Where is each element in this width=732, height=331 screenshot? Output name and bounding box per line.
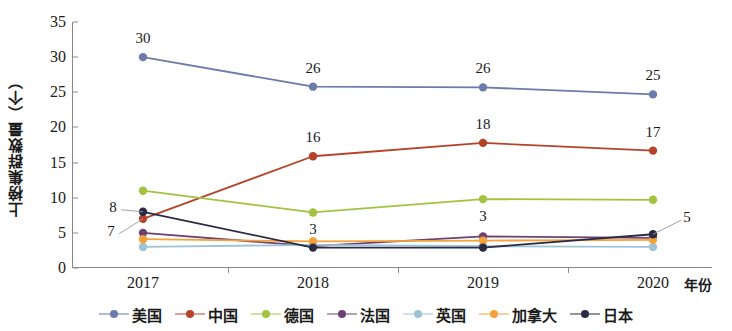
x-axis-tick-label: 2020	[637, 274, 669, 292]
data-point-中国	[309, 152, 317, 160]
data-point-美国	[139, 53, 147, 61]
y-axis-tick-mark	[73, 92, 78, 93]
legend-dot-icon	[414, 310, 422, 318]
y-axis-tick-mark	[73, 232, 78, 233]
data-label: 5	[683, 210, 691, 225]
data-label: 8	[109, 200, 117, 215]
legend-label: 德国	[284, 304, 314, 325]
y-axis-tick-mark	[73, 127, 78, 128]
legend-item-德国[interactable]: 德国	[251, 304, 314, 325]
legend-marker-icon	[570, 308, 600, 320]
data-point-日本	[309, 243, 317, 251]
series-line-中国	[143, 143, 653, 219]
legend-label: 法国	[360, 304, 390, 325]
x-axis-tick-mark	[398, 267, 399, 273]
series-line-美国	[143, 57, 653, 94]
y-axis-tick-mark	[73, 268, 78, 269]
data-point-美国	[649, 90, 657, 98]
legend-item-中国[interactable]: 中国	[175, 304, 238, 325]
plot-area: 0510152025303520172018201920203026262516…	[72, 22, 712, 268]
legend-marker-icon	[479, 308, 509, 320]
data-label: 17	[646, 125, 661, 140]
legend-label: 加拿大	[512, 304, 557, 325]
legend-marker-icon	[327, 308, 357, 320]
legend-marker-icon	[403, 308, 433, 320]
x-axis-title: 年份	[684, 274, 712, 294]
x-axis-tick-label: 2017	[127, 274, 159, 292]
legend-label: 美国	[132, 304, 162, 325]
legend-dot-icon	[110, 310, 118, 318]
data-label: 30	[136, 31, 151, 46]
y-axis-tick-label: 30	[50, 48, 73, 66]
data-label: 18	[476, 117, 491, 132]
data-point-中国	[649, 146, 657, 154]
y-axis-tick-mark	[73, 22, 78, 23]
legend-item-英国[interactable]: 英国	[403, 304, 466, 325]
legend-item-美国[interactable]: 美国	[99, 304, 162, 325]
y-axis-title: 上榜集群数量（个）	[2, 22, 30, 268]
legend-dot-icon	[338, 310, 346, 318]
data-label: 7	[107, 224, 115, 239]
data-label: 25	[646, 68, 661, 83]
legend-item-加拿大[interactable]: 加拿大	[479, 304, 557, 325]
data-point-德国	[309, 208, 317, 216]
data-label: 26	[306, 61, 321, 76]
x-axis-tick-mark	[568, 267, 569, 273]
y-axis-tick-mark	[73, 162, 78, 163]
series-line-德国	[143, 191, 653, 213]
legend-item-日本[interactable]: 日本	[570, 304, 633, 325]
data-point-日本	[479, 243, 487, 251]
plot-svg	[73, 22, 713, 268]
data-point-中国	[479, 139, 487, 147]
x-axis-tick-mark	[228, 267, 229, 273]
line-chart-figure: 上榜集群数量（个） 051015202530352017201820192020…	[0, 0, 732, 331]
data-label: 16	[306, 130, 321, 145]
y-axis-tick-label: 35	[50, 13, 73, 31]
y-axis-tick-label: 5	[58, 224, 73, 242]
data-point-德国	[649, 196, 657, 204]
data-point-美国	[309, 82, 317, 90]
y-axis-tick-mark	[73, 57, 78, 58]
y-axis-tick-label: 10	[50, 189, 73, 207]
legend-item-法国[interactable]: 法国	[327, 304, 390, 325]
chart-legend: 美国中国德国法国英国加拿大日本	[0, 300, 732, 328]
y-axis-tick-mark	[73, 197, 78, 198]
y-axis-tick-label: 25	[50, 83, 73, 101]
y-axis-tick-label: 20	[50, 118, 73, 136]
legend-marker-icon	[175, 308, 205, 320]
data-label-leader-line	[653, 220, 681, 234]
legend-label: 中国	[208, 304, 238, 325]
data-point-加拿大	[139, 235, 147, 243]
series-line-英国	[143, 245, 653, 247]
legend-dot-icon	[262, 310, 270, 318]
legend-marker-icon	[251, 308, 281, 320]
legend-dot-icon	[186, 310, 194, 318]
data-label: 26	[476, 61, 491, 76]
data-label: 3	[479, 209, 487, 224]
data-point-德国	[139, 186, 147, 194]
legend-label: 英国	[436, 304, 466, 325]
data-point-美国	[479, 83, 487, 91]
data-point-英国	[139, 243, 147, 251]
legend-dot-icon	[581, 310, 589, 318]
x-axis-tick-label: 2019	[467, 274, 499, 292]
data-point-德国	[479, 195, 487, 203]
y-axis-tick-label: 15	[50, 154, 73, 172]
legend-label: 日本	[603, 304, 633, 325]
data-label: 3	[309, 222, 317, 237]
legend-marker-icon	[99, 308, 129, 320]
x-axis-tick-label: 2018	[297, 274, 329, 292]
legend-dot-icon	[490, 310, 498, 318]
series-line-日本	[143, 212, 653, 248]
y-axis-tick-label: 0	[58, 259, 73, 277]
